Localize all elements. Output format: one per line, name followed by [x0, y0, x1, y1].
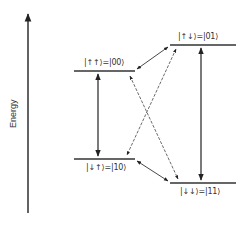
- level-label-00: |↑↑⟩=|00⟩: [84, 58, 124, 67]
- transition-01-10: [127, 49, 176, 155]
- energy-axis-label: Energy: [8, 99, 18, 128]
- level-label-10: |↓↑⟩=|10⟩: [86, 163, 126, 172]
- transition-10-11: [137, 161, 168, 181]
- level-label-11: |↓↓⟩=|11⟩: [180, 187, 220, 196]
- transition-00-11: [130, 76, 178, 179]
- transition-00-01: [137, 47, 168, 69]
- level-label-01: |↑↓⟩=|01⟩: [178, 32, 218, 41]
